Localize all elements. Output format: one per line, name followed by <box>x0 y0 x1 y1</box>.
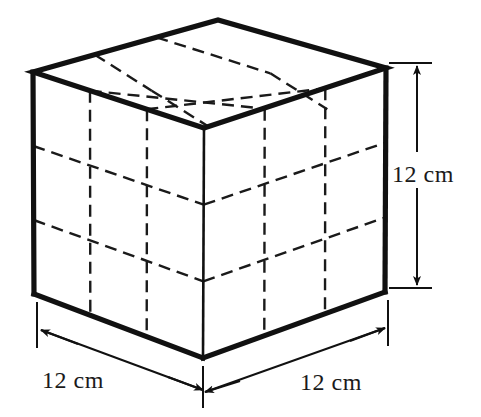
edge-right-vertical <box>385 68 386 292</box>
width-dimension-label: 12 cm <box>300 369 362 395</box>
cube-figure: 12 cm 12 cm 12 cm <box>0 0 481 417</box>
edge-left-vertical <box>33 72 34 294</box>
height-dimension-label: 12 cm <box>392 161 454 187</box>
face-fills <box>33 20 386 358</box>
depth-dimension-label: 12 cm <box>42 367 104 393</box>
cube-diagram-svg: 12 cm 12 cm 12 cm <box>0 0 481 417</box>
edge-front-vertical <box>203 128 204 358</box>
